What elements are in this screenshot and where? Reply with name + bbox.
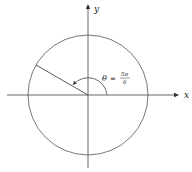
angle-theta-label: θ	[102, 74, 107, 83]
angle-equals: =	[110, 75, 116, 83]
angle-denominator: 6	[123, 79, 127, 85]
x-axis-label: x	[184, 90, 189, 100]
y-axis-label: y	[93, 4, 100, 14]
angle-numerator: 5π	[121, 71, 128, 77]
terminal-ray	[36, 65, 88, 95]
diagram-canvas: x y θ = 5π 6	[0, 0, 192, 172]
